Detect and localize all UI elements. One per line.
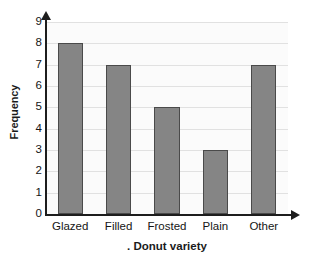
y-axis-tick-label: 3: [22, 144, 42, 156]
gridline: [46, 22, 288, 23]
y-axis-tick-label: 7: [22, 59, 42, 71]
y-axis-tick-label: 8: [22, 38, 42, 50]
y-axis-title: Frequency: [8, 67, 20, 157]
bar: [58, 43, 83, 214]
y-axis-tick-label: 4: [22, 123, 42, 135]
x-axis-tick-label: Frosted: [148, 220, 187, 232]
y-axis-tick-label: 6: [22, 80, 42, 92]
x-axis-tick-label: Plain: [203, 220, 229, 232]
bar-chart: Frequency 0123456789 GlazedFilledFrosted…: [0, 0, 314, 266]
x-axis-tick-label: Other: [249, 220, 278, 232]
x-axis-tick-label: Filled: [105, 220, 132, 232]
x-axis-tick-label: Glazed: [52, 220, 88, 232]
y-axis-tick-label: 9: [22, 16, 42, 28]
bar: [106, 65, 131, 214]
y-axis-tick-label: 0: [22, 208, 42, 220]
x-axis-title: . Donut variety: [46, 240, 288, 252]
y-axis-line: [45, 18, 47, 216]
y-axis-tick-label: 5: [22, 102, 42, 114]
bar: [154, 107, 179, 214]
y-axis-tick-label: 1: [22, 187, 42, 199]
plot-area: [46, 22, 288, 214]
y-axis-tick-label: 2: [22, 166, 42, 178]
bar: [203, 150, 228, 214]
y-axis-arrow-icon: [41, 11, 51, 20]
x-axis-arrow-icon: [291, 210, 300, 220]
bar: [251, 65, 276, 214]
x-axis-tick-labels: GlazedFilledFrostedPlainOther: [46, 220, 288, 236]
y-axis-tick-labels: 0123456789: [22, 22, 42, 214]
x-axis-line: [45, 214, 293, 216]
